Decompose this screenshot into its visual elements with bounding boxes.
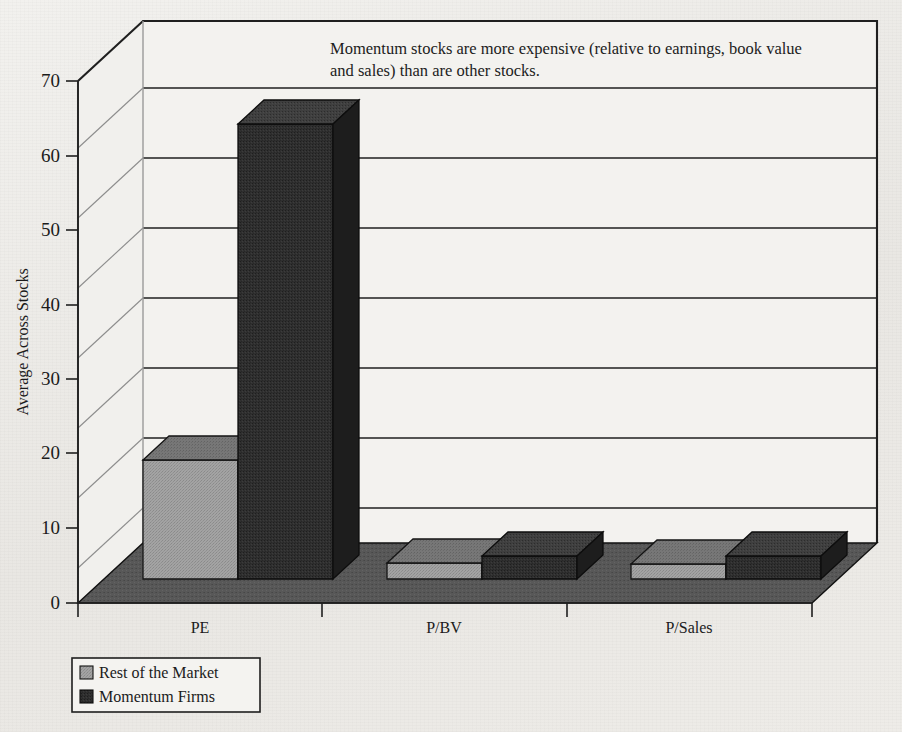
y-axis	[66, 81, 78, 603]
x-label-psales: P/Sales	[665, 619, 712, 636]
y-axis-title: Average Across Stocks	[14, 268, 32, 415]
chart-legend[interactable]: Rest of the Market Momentum Firms	[72, 658, 260, 712]
y-tick-20: 20	[41, 442, 60, 463]
y-tick-50: 50	[41, 219, 60, 240]
y-tick-10: 10	[41, 517, 60, 538]
legend-item-momentum-firms[interactable]: Momentum Firms	[80, 688, 215, 705]
bar-psales-momentum-firms	[726, 532, 847, 579]
plot-left-wall	[78, 21, 143, 603]
x-label-pe: PE	[191, 619, 210, 636]
bar-pe-momentum-firms	[238, 100, 359, 579]
y-tick-30: 30	[41, 368, 60, 389]
x-axis	[78, 603, 812, 617]
bar-chart-svg: 0 10 20 30 40 50 60 70 Average Across St…	[0, 0, 902, 732]
legend-swatch-icon-momentum-firms	[80, 690, 93, 703]
bar-pbv-momentum-firms	[482, 532, 603, 579]
y-axis-tick-labels: 0 10 20 30 40 50 60 70	[41, 70, 60, 613]
legend-item-rest-of-the-market[interactable]: Rest of the Market	[80, 664, 219, 681]
annotation-line-1: Momentum stocks are more expensive (rela…	[330, 39, 802, 58]
x-axis-category-labels: PE P/BV P/Sales	[191, 619, 713, 636]
y-tick-70: 70	[41, 70, 60, 91]
annotation-line-2: and sales) than are other stocks.	[330, 61, 540, 80]
y-tick-0: 0	[51, 592, 61, 613]
legend-swatch-icon-rest-of-the-market	[80, 666, 93, 679]
y-tick-60: 60	[41, 145, 60, 166]
x-label-pbv: P/BV	[426, 619, 462, 636]
legend-label-momentum-firms: Momentum Firms	[99, 688, 215, 705]
y-tick-40: 40	[41, 294, 60, 315]
chart-figure: 0 10 20 30 40 50 60 70 Average Across St…	[0, 0, 902, 732]
legend-label-rest-of-the-market: Rest of the Market	[99, 664, 219, 681]
